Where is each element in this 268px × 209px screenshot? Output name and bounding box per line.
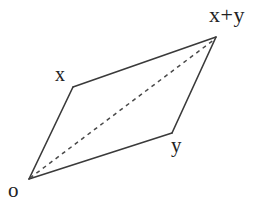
parallelogram-diagram (0, 0, 268, 209)
edge-sum-to-y (172, 37, 216, 133)
edge-x-to-sum (73, 37, 216, 87)
vertex-label-origin: o (8, 180, 19, 201)
edge-y-to-origin (29, 133, 172, 179)
edge-origin-to-x (29, 87, 73, 179)
vector-parallelogram-figure: o x y x+y (0, 0, 268, 209)
vertex-label-sum: x+y (209, 4, 245, 26)
vertex-label-y: y (171, 135, 182, 156)
vertex-label-x: x (55, 64, 65, 84)
diagonal-dashed-line (30, 39, 215, 178)
